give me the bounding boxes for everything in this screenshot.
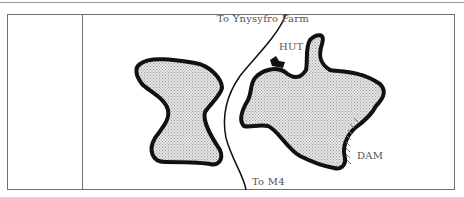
map-canvas [0,0,464,197]
label-to-m4: To M4 [252,176,285,187]
hut-icon [270,56,285,68]
label-hut: HUT [279,41,303,52]
east-reservoir [241,35,384,168]
west-reservoir [136,59,222,164]
label-to-ynysyfro-farm: To Ynysyfro Farm [217,13,309,24]
label-dam: DAM [357,150,383,161]
